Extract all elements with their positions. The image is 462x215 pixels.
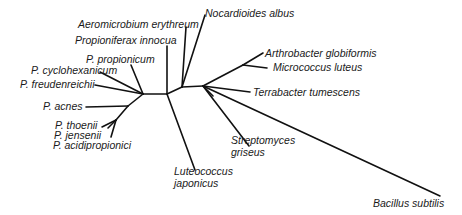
edge-C-D — [182, 86, 203, 87]
label-p-cyclohexanicum: P. cyclohexanicum — [31, 64, 117, 76]
label-luteococcus-line1: Luteococcus — [174, 165, 234, 177]
edge-B-C — [167, 87, 182, 94]
label-streptomyces-line2: griseus — [231, 146, 266, 158]
label-terrabacter: Terrabacter tumescens — [253, 86, 361, 98]
label-propioniferax: Propioniferax innocua — [75, 34, 177, 46]
label-streptomyces-line1: Streptomyces — [231, 134, 296, 146]
branch-p-group-stem — [116, 106, 128, 120]
branch-micrococcus — [243, 65, 267, 68]
branch-p-acnes — [86, 106, 128, 107]
taxon-labels: Nocardioides albus Aeromicrobium erythre… — [20, 7, 445, 209]
label-arthrobacter: Arthrobacter globiformis — [264, 47, 377, 59]
label-nocardioides: Nocardioides albus — [205, 7, 295, 19]
internal-branches — [128, 65, 243, 106]
label-p-acidipropionici: P. acidipropionici — [53, 139, 132, 151]
label-aeromicrobium: Aeromicrobium erythreum — [77, 18, 199, 30]
label-micrococcus: Micrococcus luteus — [273, 61, 363, 73]
branch-arthrobacter — [243, 53, 263, 65]
edge-A-P — [128, 94, 143, 106]
phylogenetic-tree: Nocardioides albus Aeromicrobium erythre… — [0, 0, 462, 215]
label-p-freudenreichii: P. freudenreichii — [20, 78, 95, 90]
label-p-acnes: P. acnes — [43, 100, 83, 112]
label-bacillus: Bacillus subtilis — [373, 197, 445, 209]
label-luteococcus-line2: japonicus — [172, 177, 219, 189]
branch-luteococcus — [167, 94, 195, 170]
edge-D-E — [203, 65, 243, 86]
